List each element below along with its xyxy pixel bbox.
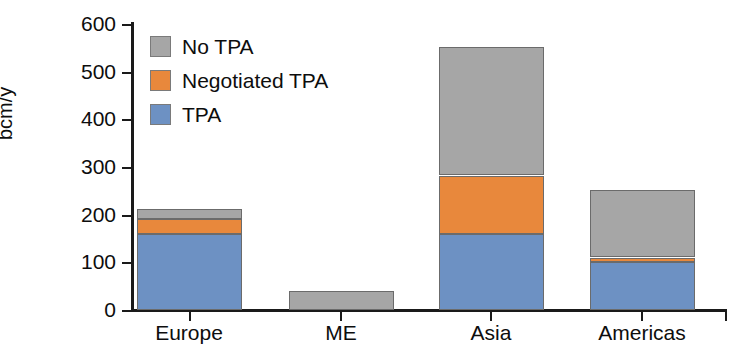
y-tick-label-500: 500 <box>36 61 116 82</box>
bar-europe-negotiated-tpa <box>137 219 242 233</box>
bar-europe-tpa <box>137 234 242 310</box>
x-axis-end-tick <box>725 312 727 321</box>
y-tick-500 <box>122 72 132 74</box>
y-tick-label-0: 0 <box>36 299 116 320</box>
legend-label-negotiated-tpa: Negotiated TPA <box>182 70 328 91</box>
bar-europe-no-tpa <box>137 209 242 219</box>
y-tick-label-200: 200 <box>36 204 116 225</box>
x-tick-asia <box>490 312 492 321</box>
y-tick-label-400: 400 <box>36 108 116 129</box>
legend-swatch-negotiated-tpa <box>150 70 171 91</box>
x-tick-label-americas: Americas <box>582 322 702 343</box>
y-tick-400 <box>122 119 132 121</box>
y-tick-0 <box>122 310 132 312</box>
y-tick-label-300: 300 <box>36 156 116 177</box>
legend-item-no-tpa: No TPA <box>150 30 328 62</box>
y-tick-100 <box>122 262 132 264</box>
y-tick-600 <box>122 24 132 26</box>
chart-legend: No TPA Negotiated TPA TPA <box>150 30 328 132</box>
legend-item-negotiated-tpa: Negotiated TPA <box>150 64 328 96</box>
bar-asia-no-tpa <box>439 47 544 176</box>
y-tick-label-600: 600 <box>36 13 116 34</box>
bar-asia-tpa <box>439 234 544 310</box>
bar-americas-tpa <box>590 262 695 310</box>
y-tick-200 <box>122 215 132 217</box>
x-tick-label-europe: Europe <box>129 322 249 343</box>
legend-label-no-tpa: No TPA <box>182 36 254 57</box>
x-tick-label-me: ME <box>281 322 401 343</box>
y-axis-label: bcm/y <box>0 87 17 140</box>
x-tick-me <box>340 312 342 321</box>
y-tick-label-100: 100 <box>36 251 116 272</box>
bar-me-no-tpa <box>289 291 394 310</box>
x-tick-americas <box>641 312 643 321</box>
x-tick-label-asia: Asia <box>431 322 551 343</box>
bar-americas-no-tpa <box>590 190 695 258</box>
legend-item-tpa: TPA <box>150 98 328 130</box>
bar-asia-negotiated-tpa <box>439 176 544 234</box>
legend-swatch-tpa <box>150 104 171 125</box>
legend-label-tpa: TPA <box>182 104 221 125</box>
chart-figure: bcm/y 600 500 400 300 200 100 0 Europe M… <box>0 0 752 356</box>
bar-americas-negotiated-tpa <box>590 258 695 263</box>
x-tick-europe <box>189 312 191 321</box>
legend-swatch-no-tpa <box>150 36 171 57</box>
y-tick-300 <box>122 167 132 169</box>
